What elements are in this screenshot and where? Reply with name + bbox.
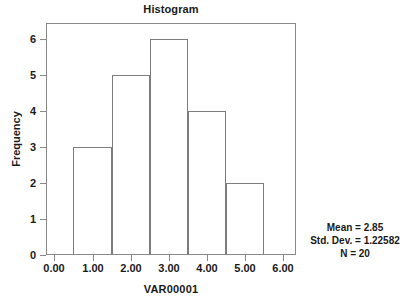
y-tick-label: 6 — [20, 34, 36, 45]
histogram-bars — [46, 23, 296, 255]
chart-title: Histogram — [46, 3, 296, 15]
y-tick-label: 3 — [20, 142, 36, 153]
y-tick-mark — [40, 111, 46, 112]
histogram-chart: Histogram Frequency 0123456 0.001.002.00… — [0, 0, 414, 304]
x-tick-label: 5.00 — [225, 263, 265, 274]
y-tick-mark — [40, 75, 46, 76]
x-tick-label: 2.00 — [111, 263, 151, 274]
y-tick-label: 1 — [20, 214, 36, 225]
y-tick-label: 5 — [20, 70, 36, 81]
x-tick-label: 0.00 — [34, 263, 74, 274]
x-tick-mark — [207, 255, 208, 261]
histogram-bar — [73, 147, 111, 255]
stat-n: N = 20 — [300, 247, 410, 260]
y-tick-label: 4 — [20, 106, 36, 117]
x-tick-label: 1.00 — [73, 263, 113, 274]
x-tick-mark — [169, 255, 170, 261]
x-tick-label: 4.00 — [187, 263, 227, 274]
y-tick-label: 0 — [20, 250, 36, 261]
y-tick-mark — [40, 147, 46, 148]
stat-mean: Mean = 2.85 — [300, 221, 410, 234]
x-tick-mark — [283, 255, 284, 261]
x-tick-mark — [93, 255, 94, 261]
statistics-annotation: Mean = 2.85 Std. Dev. = 1.22582 N = 20 — [300, 221, 410, 260]
histogram-bar — [112, 75, 150, 255]
x-tick-mark — [131, 255, 132, 261]
histogram-bar — [150, 39, 188, 255]
y-tick-mark — [40, 219, 46, 220]
y-tick-mark — [40, 255, 46, 256]
x-tick-label: 3.00 — [149, 263, 189, 274]
y-tick-mark — [40, 183, 46, 184]
x-tick-mark — [245, 255, 246, 261]
histogram-bar — [188, 111, 226, 255]
y-tick-mark — [40, 39, 46, 40]
y-tick-label: 2 — [20, 178, 36, 189]
x-tick-label: 6.00 — [263, 263, 303, 274]
x-axis-label: VAR00001 — [46, 283, 296, 295]
x-tick-mark — [54, 255, 55, 261]
histogram-bar — [226, 183, 264, 255]
stat-std-dev: Std. Dev. = 1.22582 — [300, 234, 410, 247]
